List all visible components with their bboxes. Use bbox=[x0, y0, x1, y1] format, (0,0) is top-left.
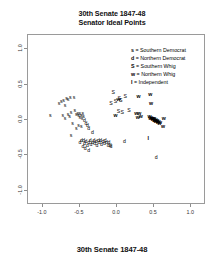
y-tick-mark bbox=[24, 190, 27, 191]
y-tick-label: 0.5 bbox=[17, 77, 23, 91]
y-tick-label: -1.0 bbox=[17, 183, 23, 197]
y-tick-label: 0.0 bbox=[17, 112, 23, 126]
data-point-southern-democrat: s bbox=[69, 95, 72, 100]
data-point-northern-democrat: d bbox=[87, 127, 90, 132]
x-tick-label: -0.5 bbox=[74, 209, 83, 215]
legend-label: Northern Democrat bbox=[140, 55, 185, 61]
chart-legend: s = Southern Democratd = Northern Democr… bbox=[131, 46, 203, 86]
legend-label: Independent bbox=[139, 79, 168, 85]
data-point-northern-whig: w bbox=[162, 116, 166, 121]
data-point-northern-democrat: d bbox=[155, 155, 158, 160]
data-point-southern-whig: S bbox=[123, 95, 126, 100]
y-tick-mark bbox=[24, 84, 27, 85]
x-tick-label: 1.0 bbox=[186, 209, 194, 215]
data-point-northern-democrat: d bbox=[87, 149, 90, 154]
x-tick-label: -1.0 bbox=[37, 209, 46, 215]
data-point-southern-democrat: s bbox=[49, 114, 52, 119]
legend-entry-northern-democrat: d = Northern Democrat bbox=[131, 54, 203, 62]
x-tick-mark bbox=[153, 204, 154, 207]
x-tick-mark bbox=[42, 204, 43, 207]
data-point-northern-whig: w bbox=[113, 114, 117, 119]
x-tick-mark bbox=[116, 204, 117, 207]
chart-title-line-1: 30th Senate 1847-48 bbox=[0, 9, 224, 18]
data-point-northern-democrat: d bbox=[91, 131, 94, 136]
legend-entry-southern-whig: S = Southern Whig bbox=[131, 62, 203, 70]
scatter-plot-figure: 30th Senate 1847-48 Senator Ideal Points… bbox=[0, 0, 224, 264]
chart-title: 30th Senate 1847-48 Senator Ideal Points bbox=[0, 9, 224, 27]
data-point-southern-democrat: s bbox=[75, 127, 78, 132]
data-point-southern-whig: S bbox=[127, 108, 130, 113]
x-tick-label: 0.5 bbox=[149, 209, 157, 215]
data-point-northern-whig: w bbox=[149, 102, 153, 107]
data-point-northern-whig: w bbox=[136, 94, 140, 99]
y-tick-label: -0.5 bbox=[17, 147, 23, 161]
legend-label: Northern Whig bbox=[141, 71, 175, 77]
data-point-southern-democrat: s bbox=[71, 121, 74, 126]
y-tick-mark bbox=[24, 48, 27, 49]
data-point-northern-democrat: d bbox=[84, 146, 87, 151]
data-point-northern-whig: w bbox=[161, 124, 165, 129]
data-point-northern-whig: w bbox=[136, 115, 140, 120]
data-point-southern-democrat: s bbox=[70, 133, 73, 138]
x-tick-label: 0.0 bbox=[112, 209, 120, 215]
legend-entry-southern-democrat: s = Southern Democrat bbox=[131, 46, 203, 54]
x-tick-mark bbox=[190, 204, 191, 207]
y-tick-label: 1.0 bbox=[17, 41, 23, 55]
data-point-southern-democrat: s bbox=[70, 110, 73, 115]
data-point-northern-democrat: d bbox=[110, 144, 113, 149]
x-tick-mark bbox=[79, 204, 80, 207]
legend-entry-independent: I = Independent bbox=[131, 78, 203, 86]
legend-label: Southern Whig bbox=[141, 63, 176, 69]
y-tick-mark bbox=[24, 119, 27, 120]
chart-title-line-2: Senator Ideal Points bbox=[0, 18, 224, 27]
data-point-southern-democrat: s bbox=[64, 103, 67, 108]
y-tick-mark bbox=[24, 154, 27, 155]
data-point-southern-whig: S bbox=[120, 110, 123, 115]
data-point-northern-whig: w bbox=[148, 92, 152, 97]
legend-entry-northern-whig: w = Northern Whig bbox=[131, 70, 203, 78]
data-point-southern-democrat: s bbox=[80, 124, 83, 129]
data-point-southern-democrat: s bbox=[73, 95, 76, 100]
data-point-independent: I bbox=[147, 137, 148, 142]
legend-label: Southern Democrat bbox=[140, 47, 186, 53]
data-point-northern-democrat: d bbox=[123, 139, 126, 144]
figure-caption: 30th Senate 1847-48 bbox=[0, 245, 224, 254]
data-point-southern-whig: S bbox=[109, 102, 112, 107]
data-point-northern-whig: w bbox=[116, 98, 120, 103]
data-point-southern-whig: S bbox=[112, 90, 115, 95]
